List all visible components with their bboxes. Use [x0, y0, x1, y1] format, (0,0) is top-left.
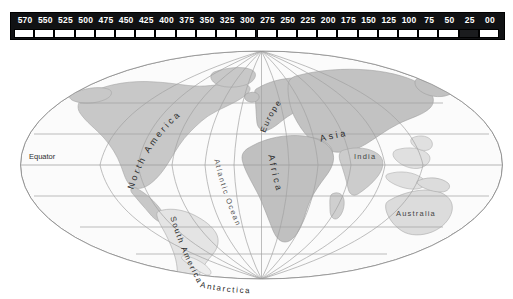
time-scale-tick-500: 500	[78, 14, 93, 27]
time-scale-tick-570: 570	[18, 14, 33, 27]
time-scale-tick-375: 375	[179, 14, 194, 27]
time-scale-segment-100[interactable]	[398, 29, 418, 38]
time-scale-tick-75: 75	[424, 14, 434, 27]
time-scale-tick-150: 150	[361, 14, 376, 27]
time-scale-segment-300[interactable]	[236, 29, 256, 38]
label-india: India	[354, 152, 376, 161]
time-scale-tick-50: 50	[445, 14, 455, 27]
time-scale-tick-275: 275	[260, 14, 275, 27]
time-scale-tick-100: 100	[402, 14, 417, 27]
time-scale-tick-525: 525	[58, 14, 73, 27]
time-scale-segment-425[interactable]	[135, 29, 155, 38]
time-scale-tick-125: 125	[381, 14, 396, 27]
time-scale-segment-550[interactable]	[34, 29, 54, 38]
time-scale-segment-200[interactable]	[317, 29, 337, 38]
time-scale-labels: 5705505255004754504254003753503253002752…	[11, 13, 504, 28]
landmass-british-isles	[245, 92, 260, 102]
time-scale-tick-25: 25	[465, 14, 475, 27]
label-antarctica: Antarctica	[199, 280, 251, 295]
time-scale-segment-375[interactable]	[176, 29, 196, 38]
time-scale-tick-400: 400	[159, 14, 174, 27]
time-scale-segment-325[interactable]	[216, 29, 236, 38]
time-scale-tick-475: 475	[99, 14, 114, 27]
time-scale-segment-175[interactable]	[337, 29, 357, 38]
time-scale-segment-450[interactable]	[115, 29, 135, 38]
time-scale-segment-475[interactable]	[95, 29, 115, 38]
time-scale-tick-350: 350	[200, 14, 215, 27]
time-scale-segment-00[interactable]	[479, 29, 499, 38]
time-scale-segment-150[interactable]	[358, 29, 378, 38]
world-map-panel[interactable]: Equator North America South America	[0, 42, 513, 299]
world-map-svg[interactable]: Equator North America South America	[0, 42, 513, 299]
paleogeography-figure: 5705505255004754504254003753503253002752…	[0, 0, 513, 299]
time-scale-segment-50[interactable]	[438, 29, 458, 38]
time-scale-tick-00: 00	[485, 14, 495, 27]
time-scale-segment-400[interactable]	[155, 29, 175, 38]
time-scale-tick-300: 300	[240, 14, 255, 27]
time-scale-segment-25[interactable]	[459, 29, 479, 38]
label-australia: Australia	[396, 209, 436, 218]
time-scale-tick-175: 175	[341, 14, 356, 27]
time-scale-segment-125[interactable]	[378, 29, 398, 38]
time-scale-segment-225[interactable]	[297, 29, 317, 38]
time-scale-tick-225: 225	[301, 14, 316, 27]
time-scale-segment-350[interactable]	[196, 29, 216, 38]
time-scale-track[interactable]	[14, 29, 501, 38]
geologic-time-scale-bar[interactable]: 5705505255004754504254003753503253002752…	[10, 12, 505, 40]
time-scale-tick-200: 200	[321, 14, 336, 27]
label-equator: Equator	[29, 152, 56, 161]
time-scale-tick-450: 450	[119, 14, 134, 27]
time-scale-tick-550: 550	[38, 14, 53, 27]
time-scale-tick-425: 425	[139, 14, 154, 27]
time-scale-segment-525[interactable]	[54, 29, 74, 38]
time-scale-segment-570[interactable]	[14, 29, 34, 38]
time-scale-segment-500[interactable]	[75, 29, 95, 38]
time-scale-tick-325: 325	[220, 14, 235, 27]
time-scale-segment-75[interactable]	[418, 29, 438, 38]
time-scale-tick-250: 250	[280, 14, 295, 27]
time-scale-segment-250[interactable]	[277, 29, 297, 38]
time-scale-segment-275[interactable]	[257, 29, 277, 38]
